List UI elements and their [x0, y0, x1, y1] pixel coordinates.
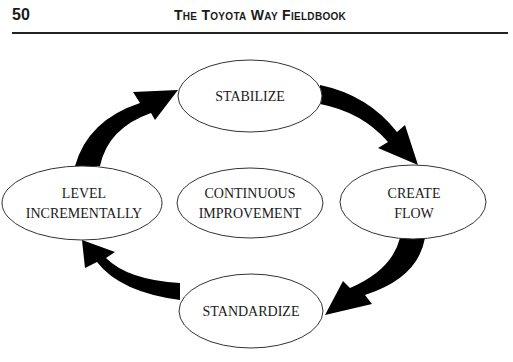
label-level-line1: LEVEL [62, 186, 106, 201]
label-create-flow-line1: CREATE [388, 186, 441, 201]
arrow-stabilize-to-create-flow [320, 85, 418, 165]
arrow-level-to-stabilize [75, 90, 178, 166]
label-stabilize: STABILIZE [215, 89, 285, 104]
label-center-line2: IMPROVEMENT [199, 206, 302, 221]
arrow-create-flow-to-standardize [325, 238, 425, 315]
label-center-line1: CONTINUOUS [205, 186, 296, 201]
node-level-incrementally [2, 166, 162, 240]
label-standardize: STANDARDIZE [203, 304, 300, 319]
node-create-flow [340, 165, 486, 239]
cycle-diagram: STABILIZE LEVEL INCREMENTALLY CONTINUOUS… [0, 0, 513, 362]
arrow-standardize-to-level [82, 240, 180, 300]
label-level-line2: INCREMENTALLY [26, 206, 142, 221]
node-continuous-improvement [177, 168, 323, 238]
label-create-flow-line2: FLOW [394, 206, 434, 221]
